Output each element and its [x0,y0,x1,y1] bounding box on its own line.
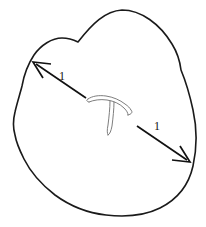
squiggle-left-cap [87,99,89,102]
squiggle-stem-left [107,101,110,135]
arrow-lower-right-shaft [137,126,187,160]
arrow-lower-right-label: 1 [154,119,160,133]
arrow-lower-right: 1 [137,119,190,162]
squiggle-right-hook [128,110,132,115]
curve-squiggle [87,96,132,135]
blob-boundary-path [14,10,197,216]
arrow-lower-right-head [172,146,190,162]
arrow-upper-left: 1 [33,62,86,98]
arrow-upper-left-head [33,62,51,78]
diagram-svg: 1 1 [0,0,206,227]
figure-canvas: 1 1 [0,0,206,227]
arrow-upper-left-label: 1 [59,69,65,83]
